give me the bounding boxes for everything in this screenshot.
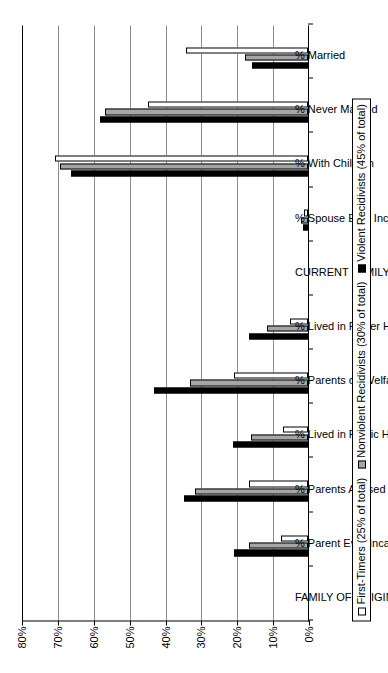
bar-group bbox=[22, 241, 308, 295]
value-axis-tick bbox=[237, 620, 238, 625]
plot-area: 0%10%20%30%40%50%60%70%80% bbox=[22, 25, 309, 621]
black-square-icon bbox=[358, 264, 366, 272]
bar bbox=[195, 488, 308, 494]
value-axis-tick-label: 80% bbox=[17, 626, 28, 668]
value-axis-tick bbox=[22, 620, 23, 625]
value-axis-tick bbox=[130, 620, 131, 625]
legend-item: Nonviolent Recidivists (30% of total) bbox=[355, 281, 368, 468]
category-label: % Lived in Public Housing bbox=[295, 427, 388, 439]
value-axis-tick bbox=[201, 620, 202, 625]
bar-group bbox=[22, 295, 308, 349]
bar bbox=[100, 116, 308, 122]
bar-group bbox=[22, 78, 308, 132]
chart-legend: First-Timers (25% of total)Nonviolent Re… bbox=[352, 98, 371, 621]
category-axis-tick bbox=[308, 511, 313, 512]
legend-item: First-Timers (25% of total) bbox=[355, 477, 368, 615]
category-axis-tick bbox=[308, 131, 313, 132]
bar-group bbox=[22, 187, 308, 241]
chart-stage: 0%10%20%30%40%50%60%70%80% FAMILY OF ORI… bbox=[0, 0, 388, 673]
legend-label: First-Timers (25% of total) bbox=[355, 477, 367, 604]
category-label: % Parents on Welfare bbox=[295, 373, 388, 385]
bar bbox=[148, 101, 308, 107]
value-axis-tick-label: 10% bbox=[268, 626, 279, 668]
bar-chart: 0%10%20%30%40%50%60%70%80% FAMILY OF ORI… bbox=[0, 0, 388, 673]
bar-group bbox=[22, 566, 308, 620]
value-axis-tick-label: 50% bbox=[125, 626, 136, 668]
bar bbox=[190, 379, 308, 385]
bar bbox=[252, 62, 308, 68]
category-axis-tick bbox=[308, 348, 313, 349]
category-axis-tick bbox=[308, 619, 313, 620]
category-label: % Lived in Foster Home or Agency bbox=[295, 319, 388, 331]
bar bbox=[186, 47, 308, 53]
bar-group bbox=[22, 24, 308, 78]
bar bbox=[71, 170, 308, 176]
value-axis-tick bbox=[166, 620, 167, 625]
bar bbox=[154, 387, 308, 393]
category-axis-tick bbox=[308, 23, 313, 24]
value-axis-tick bbox=[58, 620, 59, 625]
value-axis-tick bbox=[94, 620, 95, 625]
value-axis-tick-label: 70% bbox=[53, 626, 64, 668]
value-axis-tick-label: 40% bbox=[161, 626, 172, 668]
bar-group bbox=[22, 132, 308, 186]
category-label: % Married bbox=[295, 48, 345, 60]
bar bbox=[233, 441, 308, 447]
bar bbox=[105, 109, 308, 115]
bar-group bbox=[22, 403, 308, 457]
category-axis-tick bbox=[308, 565, 313, 566]
value-axis-tick-label: 30% bbox=[196, 626, 207, 668]
legend-label: Nonviolent Recidivists (30% of total) bbox=[355, 281, 367, 457]
bar bbox=[60, 163, 308, 169]
bar-group bbox=[22, 512, 308, 566]
category-axis-tick bbox=[308, 402, 313, 403]
category-axis-tick bbox=[308, 456, 313, 457]
category-axis-tick bbox=[308, 240, 313, 241]
legend-label: Violent Recidivists (45% of total) bbox=[355, 104, 367, 262]
bar bbox=[55, 155, 308, 161]
value-axis-tick-label: 0% bbox=[304, 626, 315, 668]
category-axis-tick bbox=[308, 294, 313, 295]
value-axis-tick bbox=[309, 620, 310, 625]
bar bbox=[249, 333, 308, 339]
category-label: % Parents Abused Alcohol or Drugs bbox=[295, 482, 388, 494]
value-axis-tick-label: 60% bbox=[89, 626, 100, 668]
category-label: FAMILY OF ORIGIN bbox=[295, 590, 388, 602]
legend-item: Violent Recidivists (45% of total) bbox=[355, 104, 368, 273]
category-label: % Spouse Ever Incarcerated bbox=[295, 211, 388, 223]
bar bbox=[303, 224, 308, 230]
white-square-icon bbox=[358, 607, 366, 615]
bar bbox=[184, 495, 308, 501]
value-axis-tick bbox=[273, 620, 274, 625]
bar-group bbox=[22, 349, 308, 403]
gray-square-icon bbox=[358, 460, 366, 468]
category-axis-tick bbox=[308, 77, 313, 78]
gridline bbox=[22, 25, 23, 620]
category-axis-tick bbox=[308, 186, 313, 187]
category-label: % Parent Ever Incarcerated bbox=[295, 536, 388, 548]
category-label: CURRENT FAMILY bbox=[295, 265, 388, 277]
rotated-chart-wrapper: 0%10%20%30%40%50%60%70%80% FAMILY OF ORI… bbox=[0, 0, 388, 673]
value-axis-tick-label: 20% bbox=[232, 626, 243, 668]
bar-group bbox=[22, 457, 308, 511]
bar bbox=[234, 549, 308, 555]
